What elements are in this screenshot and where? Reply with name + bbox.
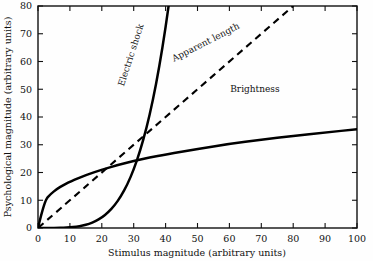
x-axis-title: Stimulus magnitude (arbitrary units): [108, 247, 286, 258]
chart-background: [0, 0, 373, 261]
x-tick-label: 70: [255, 233, 267, 244]
y-tick-label: 10: [20, 195, 32, 206]
x-tick-label: 60: [223, 233, 235, 244]
chart-figure: 0102030405060708090100 01020304050607080…: [0, 0, 373, 261]
x-tick-label: 10: [64, 233, 76, 244]
x-tick-label: 50: [191, 233, 203, 244]
y-axis-title: Psychological magnitude (arbitrary units…: [2, 17, 13, 218]
y-tick-label: 80: [20, 0, 32, 11]
y-tick-label: 50: [20, 84, 32, 95]
y-tick-label: 60: [20, 56, 32, 67]
stevens-power-law-chart: 0102030405060708090100 01020304050607080…: [0, 0, 373, 261]
y-tick-label: 20: [20, 167, 32, 178]
x-tick-label: 90: [319, 233, 331, 244]
y-tick-label: 0: [26, 222, 32, 233]
x-tick-label: 0: [35, 233, 41, 244]
y-tick-label: 40: [20, 111, 32, 122]
x-tick-label: 40: [160, 233, 172, 244]
y-tick-label: 30: [20, 139, 32, 150]
y-tick-label: 70: [20, 28, 32, 39]
series-label-brightness: Brightness: [230, 84, 280, 94]
y-axis-tick-labels: 01020304050607080: [20, 0, 32, 233]
x-tick-label: 20: [96, 233, 108, 244]
x-tick-label: 30: [128, 233, 140, 244]
x-tick-label: 80: [287, 233, 299, 244]
x-tick-label: 100: [348, 233, 366, 244]
